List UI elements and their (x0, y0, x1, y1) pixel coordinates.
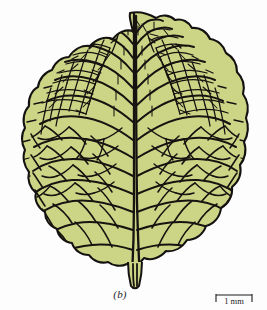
scale-bar-label: 1 mm (214, 296, 254, 306)
scale-bar: 1 mm (214, 289, 262, 309)
figure-caption: (b) (0, 288, 240, 300)
figure-container: (b) 1 mm (0, 0, 267, 310)
leaf-venation-illustration (0, 0, 267, 310)
petiole (128, 262, 142, 288)
